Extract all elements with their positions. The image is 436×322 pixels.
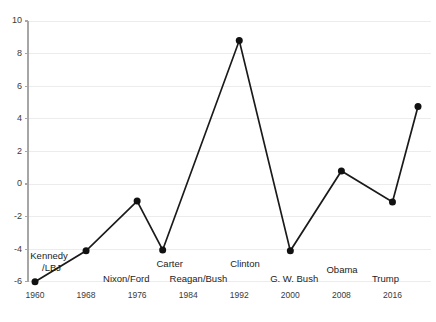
y-axis-tick-label: -6 <box>14 276 22 286</box>
chart-canvas: -6-4-20246810 19601968197619841992200020… <box>0 0 436 322</box>
y-axis-tick-label: -4 <box>14 244 22 254</box>
y-axis-tick-label: -2 <box>14 211 22 221</box>
x-axis-tick-label: 2008 <box>332 290 351 300</box>
y-axis-tick-label: 0 <box>17 178 22 188</box>
x-axis-tick-label: 1976 <box>128 290 147 300</box>
data-point-marker <box>134 198 141 205</box>
data-point-marker <box>32 278 39 285</box>
data-series-line <box>35 41 418 282</box>
data-point-marker <box>287 247 294 254</box>
series-annotation-label: /LBJ <box>42 262 61 273</box>
data-point-marker <box>389 198 396 205</box>
gridlines-group <box>28 21 431 282</box>
series-annotation-label: G. W. Bush <box>270 273 318 284</box>
y-tick-labels: -6-4-20246810 <box>12 15 22 286</box>
x-axis-tick-label: 1984 <box>179 290 198 300</box>
series-line-path <box>35 41 418 282</box>
y-axis-tick-label: 6 <box>17 81 22 91</box>
y-axis-tick-label: 10 <box>12 15 22 25</box>
x-axis-tick-label: 2000 <box>281 290 300 300</box>
x-axis-tick-label: 1992 <box>230 290 249 300</box>
y-axis-tick-label: 8 <box>17 48 22 58</box>
series-annotation-label: Nixon/Ford <box>103 273 149 284</box>
data-point-marker <box>83 247 90 254</box>
data-point-marker <box>338 167 345 174</box>
y-axis-tick-label: 4 <box>17 113 22 123</box>
series-annotation-label: Kennedy <box>30 250 68 261</box>
data-point-marker <box>236 37 243 44</box>
series-annotation-label: Trump <box>372 273 399 284</box>
data-point-marker <box>159 247 166 254</box>
x-axis-tick-label: 1968 <box>77 290 96 300</box>
x-axis-tick-label: 1960 <box>26 290 45 300</box>
series-annotation-label: Obama <box>326 264 358 275</box>
series-annotation-label: Clinton <box>230 258 260 269</box>
series-annotation-label: Carter <box>156 258 182 269</box>
y-axis-tick-label: 2 <box>17 146 22 156</box>
series-annotation-label: Reagan/Bush <box>170 273 228 284</box>
line-chart: -6-4-20246810 19601968197619841992200020… <box>0 0 436 322</box>
x-axis-tick-label: 2016 <box>383 290 402 300</box>
x-tick-labels: 19601968197619841992200020082016 <box>26 290 403 300</box>
data-point-marker <box>415 103 422 110</box>
annotation-labels: Kennedy/LBJNixon/FordCarterReagan/BushCl… <box>30 250 399 284</box>
